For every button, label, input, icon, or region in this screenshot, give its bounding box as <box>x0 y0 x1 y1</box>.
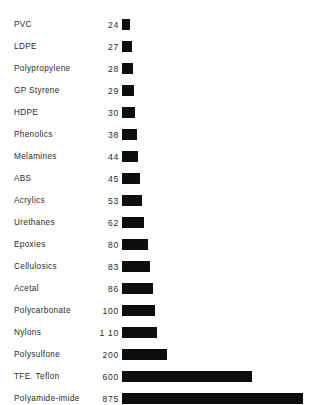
value-label: 30 <box>80 102 119 124</box>
bar <box>122 41 132 52</box>
value-label: 100 <box>80 300 119 322</box>
category-label: Urethanes <box>14 212 55 234</box>
bar <box>122 19 130 30</box>
value-label: 45 <box>80 168 119 190</box>
category-label: Epoxies <box>14 234 46 256</box>
value-label: 62 <box>80 212 119 234</box>
category-label: ABS <box>14 168 31 190</box>
category-label: PVC <box>14 14 32 36</box>
bar-track <box>122 283 317 295</box>
bar-track <box>122 239 317 251</box>
value-label: 83 <box>80 256 119 278</box>
bar-track <box>122 129 317 141</box>
category-label: Acetal <box>14 278 39 300</box>
value-label: 24 <box>80 14 119 36</box>
bar-chart: PVC24LDPE27Polypropylene28GP Styrene29HD… <box>0 0 317 405</box>
bar <box>122 239 148 250</box>
bar-track <box>122 151 317 163</box>
chart-rows: PVC24LDPE27Polypropylene28GP Styrene29HD… <box>0 14 317 405</box>
category-label: Polypropylene <box>14 58 70 80</box>
bar-track <box>122 349 317 361</box>
category-label: Acrylics <box>14 190 45 212</box>
category-label: HDPE <box>14 102 38 124</box>
chart-row: Melamines44 <box>0 146 317 168</box>
value-label: 38 <box>80 124 119 146</box>
chart-row: HDPE30 <box>0 102 317 124</box>
bar <box>122 261 150 272</box>
chart-row: Polypropylene28 <box>0 58 317 80</box>
bar <box>122 129 137 140</box>
bar <box>122 151 138 162</box>
value-label: 27 <box>80 36 119 58</box>
bar <box>122 327 157 338</box>
category-label: TFE. Teflon <box>14 366 60 388</box>
bar <box>122 217 144 228</box>
category-label: Polycarbonate <box>14 300 71 322</box>
chart-row: PVC24 <box>0 14 317 36</box>
bar-track <box>122 41 317 53</box>
chart-row: Acetal86 <box>0 278 317 300</box>
value-label: 44 <box>80 146 119 168</box>
bar <box>122 305 155 316</box>
category-label: GP Styrene <box>14 80 60 102</box>
bar-track <box>122 393 317 405</box>
bar <box>122 195 142 206</box>
bar <box>122 283 153 294</box>
bar-track <box>122 173 317 185</box>
category-label: Cellulosics <box>14 256 57 278</box>
bar-track <box>122 217 317 229</box>
chart-row: ABS45 <box>0 168 317 190</box>
bar-track <box>122 195 317 207</box>
chart-row: Polysulfone200 <box>0 344 317 366</box>
value-label: 600 <box>80 366 119 388</box>
chart-row: Phenolics38 <box>0 124 317 146</box>
bar <box>122 173 140 184</box>
category-label: Phenolics <box>14 124 53 146</box>
chart-row: Nylons1 10 <box>0 322 317 344</box>
chart-row: LDPE27 <box>0 36 317 58</box>
value-label: 200 <box>80 344 119 366</box>
category-label: Polyamide-imide <box>14 388 80 405</box>
chart-row: TFE. Teflon600 <box>0 366 317 388</box>
value-label: 28 <box>80 58 119 80</box>
chart-row: Acrylics53 <box>0 190 317 212</box>
bar-track <box>122 327 317 339</box>
category-label: Nylons <box>14 322 41 344</box>
bar <box>122 85 134 96</box>
bar <box>122 371 252 382</box>
bar-track <box>122 107 317 119</box>
value-label: 1 10 <box>80 322 119 344</box>
bar <box>122 349 167 360</box>
chart-row: Epoxies80 <box>0 234 317 256</box>
chart-row: Cellulosics83 <box>0 256 317 278</box>
bar-track <box>122 63 317 75</box>
chart-row: GP Styrene29 <box>0 80 317 102</box>
bar <box>122 393 303 404</box>
value-label: 875 <box>80 388 119 405</box>
chart-row: Polycarbonate100 <box>0 300 317 322</box>
bar-track <box>122 371 317 383</box>
value-label: 80 <box>80 234 119 256</box>
value-label: 86 <box>80 278 119 300</box>
bar-track <box>122 85 317 97</box>
value-label: 53 <box>80 190 119 212</box>
category-label: LDPE <box>14 36 37 58</box>
category-label: Polysulfone <box>14 344 60 366</box>
chart-row: Polyamide-imide875 <box>0 388 317 405</box>
bar-track <box>122 305 317 317</box>
chart-row: Urethanes62 <box>0 212 317 234</box>
bar-track <box>122 19 317 31</box>
bar <box>122 107 135 118</box>
category-label: Melamines <box>14 146 57 168</box>
bar <box>122 63 133 74</box>
bar-track <box>122 261 317 273</box>
value-label: 29 <box>80 80 119 102</box>
